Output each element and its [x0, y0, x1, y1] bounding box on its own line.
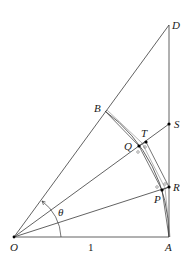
point-R [167, 185, 170, 188]
label-O: O [10, 241, 18, 253]
right-angle-mark-Q [137, 151, 140, 154]
point-O [13, 236, 16, 239]
label-P: P [153, 193, 161, 205]
label-R: R [172, 181, 180, 193]
label-OA-length: 1 [88, 241, 94, 253]
label-T: T [141, 127, 148, 139]
diagram-canvas: D B S T Q R P θ O 1 A [0, 0, 190, 259]
point-P [160, 188, 163, 191]
chord-path-outer [107, 110, 170, 237]
label-D: D [171, 19, 180, 31]
point-T [144, 140, 147, 143]
label-A: A [164, 241, 172, 253]
right-angle-mark-R [164, 183, 167, 186]
segment-TR [146, 142, 169, 187]
label-Q: Q [124, 140, 132, 152]
chord-path-inner [105, 111, 169, 237]
arc-AB [105, 111, 169, 237]
label-B: B [94, 102, 101, 114]
right-angle-mark-P [156, 186, 159, 189]
point-S [167, 122, 170, 125]
ray-OR [14, 187, 169, 237]
label-S: S [174, 118, 180, 130]
point-Q [137, 144, 140, 147]
label-theta: θ [58, 206, 64, 218]
